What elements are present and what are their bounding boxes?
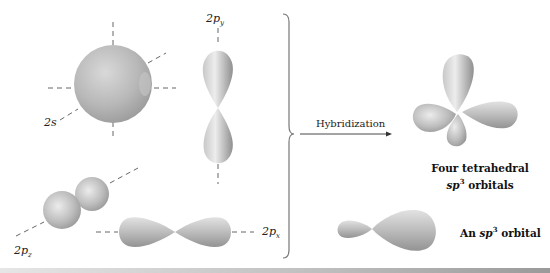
sp-italic: sp bbox=[446, 179, 459, 191]
tetrahedral-caption-line1: Four tetrahedral bbox=[420, 162, 540, 175]
single-caption-rest: orbital bbox=[498, 227, 541, 239]
label-2px-main: 2p bbox=[262, 225, 276, 238]
tetrahedral-sp3-orbitals bbox=[413, 54, 518, 146]
label-2py: 2py bbox=[206, 12, 224, 27]
single-sp-italic: sp bbox=[479, 227, 492, 239]
label-2px-sub: x bbox=[276, 232, 280, 240]
tetrahedral-caption: Four tetrahedral sp3 orbitals bbox=[420, 162, 540, 192]
label-2pz: 2pz bbox=[14, 244, 32, 259]
orbital-2px bbox=[96, 217, 254, 247]
orbital-2s bbox=[48, 22, 176, 140]
label-2s: 2s bbox=[44, 116, 57, 129]
label-2px: 2px bbox=[262, 225, 280, 240]
px-right-lobe bbox=[175, 217, 231, 247]
hybridization-label: Hybridization bbox=[316, 118, 385, 129]
orbital-2pz bbox=[16, 168, 138, 236]
py-upper-lobe bbox=[203, 51, 233, 108]
hybridization-arrow[interactable] bbox=[300, 132, 392, 137]
single-sp3-orbital bbox=[338, 210, 436, 251]
label-2py-sub: y bbox=[220, 19, 224, 27]
tetrahedral-caption-line2: sp3 orbitals bbox=[420, 175, 540, 192]
label-2py-main: 2p bbox=[206, 12, 220, 25]
single-sp3-caption: An sp3 orbital bbox=[460, 223, 541, 240]
orbitals-word: orbitals bbox=[465, 179, 514, 191]
py-lower-lobe bbox=[204, 108, 233, 163]
label-2pz-sub: z bbox=[28, 251, 32, 259]
right-curly-brace bbox=[283, 14, 294, 258]
bottom-border-band bbox=[0, 268, 550, 273]
pz-front-lobe bbox=[43, 191, 81, 229]
px-left-lobe bbox=[119, 217, 175, 247]
sp3-small-lobe bbox=[338, 220, 373, 238]
orbital-2py bbox=[203, 28, 233, 184]
sp3-large-lobe bbox=[372, 210, 436, 251]
single-caption-prefix: An bbox=[460, 227, 479, 239]
label-2pz-main: 2p bbox=[14, 244, 28, 257]
